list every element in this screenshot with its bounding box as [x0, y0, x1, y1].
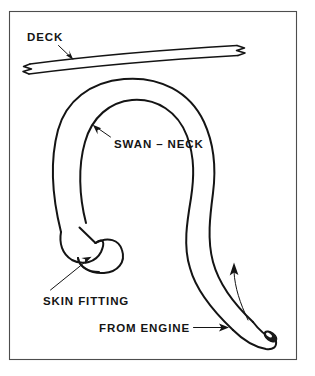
label-swan-neck: SWAN – NECK [114, 138, 204, 150]
label-from-engine: FROM ENGINE [99, 322, 190, 334]
label-skin-fitting: SKIN FITTING [43, 295, 129, 307]
swan-neck-diagram: DECK SWAN – NECK SKIN FITTING FROM ENGIN… [0, 0, 315, 376]
label-deck: DECK [27, 31, 63, 43]
diagram-background [0, 0, 315, 376]
diagram-canvas: DECK SWAN – NECK SKIN FITTING FROM ENGIN… [0, 0, 315, 376]
